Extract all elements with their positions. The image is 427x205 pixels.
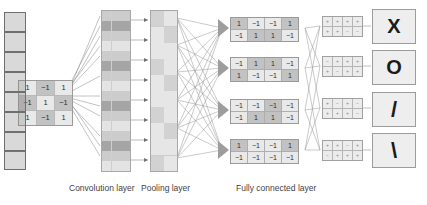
fc-block-1: 1 −1 −1 1 −1 1 1 −1 [230,17,299,42]
pool-cell [151,75,164,90]
fc-arrow-icon [218,101,229,119]
conv-cell [102,111,111,121]
conv-cell [121,141,130,151]
conv-cell [112,71,121,81]
fc-cell: −1 [231,112,247,123]
activation-cell: + [353,57,362,66]
activation-cell: + [323,109,332,118]
fc-cell: −1 [265,140,281,151]
fc-cell: −1 [265,100,281,111]
pool-cell [164,11,177,26]
activation-cell: + [343,99,352,108]
fc-cell: 1 [265,112,281,123]
fc-cell: 1 [282,140,298,151]
input-cell: 1 [55,81,72,95]
input-matrix: 1 −1 1 −1 1 −1 1 −1 1 [18,80,73,126]
conv-highlight-patch [4,32,26,52]
conv-highlight-patch [4,150,26,170]
conv-cell [121,161,130,171]
fc-cell: −1 [282,152,298,163]
activation-cell: + [343,57,352,66]
conv-cell [112,111,121,121]
pool-cell [164,139,177,154]
conv-cell [112,61,121,71]
conv-cell [121,101,130,111]
activation-grid-4: + + − + − + + + [322,140,363,161]
activation-cell: + [333,27,342,36]
conv-cell [102,101,111,111]
fc-arrow-icon [218,59,229,77]
fc-cell: 1 [231,70,247,81]
pool-cell [164,75,177,90]
conv-cell [121,41,130,51]
pool-cell [151,43,164,58]
conv-cell [121,81,130,91]
conv-cell [112,101,121,111]
conv-cell [102,121,111,131]
pool-cell [164,59,177,74]
fc-cell: 1 [282,18,298,29]
fc-cell: −1 [231,58,247,69]
caption-fully-connected-layer: Fully connected layer [236,183,316,193]
caption-pooling-layer: Pooling layer [141,183,190,193]
input-cell: −1 [37,81,54,95]
fc-cell: 1 [231,18,247,29]
conv-cell [121,111,130,121]
input-cell: 1 [37,96,54,110]
fc-cell: −1 [248,70,264,81]
conv-cell [102,131,111,141]
output-o: O [372,50,416,85]
pool-cell [151,139,164,154]
activation-grid-1: + + + + + + − − [322,16,363,37]
activation-cell: + [323,27,332,36]
fc-arrow-icon [218,141,229,159]
fc-arrow-icon [218,19,229,37]
pool-cell [151,156,164,171]
input-cell: 1 [55,111,72,125]
input-cell: −1 [55,96,72,110]
activation-grid-2: − + + + + − + + [322,56,363,77]
activation-cell: − [333,67,342,76]
fc-cell: −1 [231,100,247,111]
conv-cell [112,121,121,131]
activation-cell: + [333,17,342,26]
fc-cell: −1 [231,152,247,163]
conv-highlight-patch [4,112,26,132]
conv-cell [112,11,121,21]
activation-cell: + [353,17,362,26]
conv-cell [121,71,130,81]
pool-cell [164,27,177,42]
fc-cell: −1 [282,100,298,111]
output-x: X [372,9,416,44]
pool-cell [151,59,164,74]
conv-cell [121,51,130,61]
activation-cell: + [323,67,332,76]
conv-cell [112,51,121,61]
conv-cell [121,151,130,161]
conv-cell [112,161,121,171]
output-slash: / [372,92,416,127]
fc-cell: 1 [231,140,247,151]
activation-cell: + [323,141,332,150]
conv-cell [112,141,121,151]
conv-cell [102,31,111,41]
activation-cell: − [323,151,332,160]
fc-block-3: −1 −1 −1 −1 −1 1 1 −1 [230,99,299,124]
fc-cell: 1 [265,30,281,41]
activation-grid-3: + − + − + + + − [322,98,363,119]
conv-highlight-patch [4,12,26,32]
fc-cell: −1 [265,152,281,163]
conv-cell [121,11,130,21]
activation-cell: − [353,109,362,118]
activation-cell: − [353,27,362,36]
pool-cell [164,123,177,138]
conv-cell [102,81,111,91]
activation-cell: + [353,67,362,76]
conv-highlight-patch [4,132,26,152]
fc-cell: 1 [282,70,298,81]
conv-cell [112,41,121,51]
activation-cell: + [323,99,332,108]
fc-block-2: −1 1 1 −1 1 −1 −1 1 [230,57,299,82]
pool-cell [164,91,177,106]
conv-cell [121,91,130,101]
